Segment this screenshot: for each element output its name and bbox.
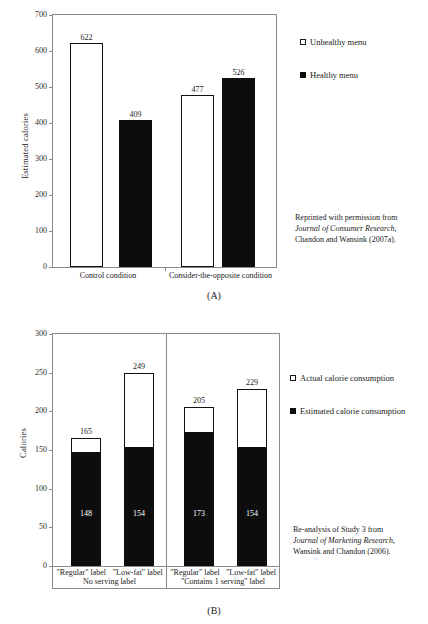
legend-item-estimated-consumption[interactable]: Estimated calorie consumption <box>290 407 405 416</box>
y-tick-b-250: 250 <box>35 369 53 377</box>
legend-b: Actual calorie consumption Estimated cal… <box>290 374 405 415</box>
y-tick-a-200: 200 <box>35 191 53 199</box>
x-label-regular-1: "Regular" label <box>53 568 110 577</box>
x-group-label-control: Control condition <box>52 272 164 281</box>
y-tick-b-200: 200 <box>35 407 53 415</box>
y-axis-title-a: Estimated calories <box>20 91 30 201</box>
legend-item-unhealthy-menu[interactable]: Unhealthy menu <box>300 38 366 47</box>
x-group-cell-contains-serving: "Regular" label "Low-fat" label "Contain… <box>166 567 279 588</box>
legend-a: Unhealthy menu Healthy menu <box>300 38 366 79</box>
legend-label: Actual calorie consumption <box>300 374 394 383</box>
y-axis-title-b: Calories <box>18 408 28 478</box>
bar-control-healthy[interactable]: 409 <box>119 120 152 267</box>
bar-total-label: 205 <box>193 397 205 405</box>
segment-actual <box>124 373 154 446</box>
figure-panel-b: Calories 300 250 200 150 100 50 0 165 14… <box>0 312 428 624</box>
open-square-icon <box>300 39 306 45</box>
segment-estimated <box>184 432 214 566</box>
bar-serving-regular[interactable]: 205 173 <box>184 407 214 566</box>
x-group-label-opposite: Consider-the-opposite condition <box>164 272 277 281</box>
bar-control-unhealthy[interactable]: 622 <box>70 43 103 267</box>
credit-line-1: Re-analysis of Study 3 from <box>293 524 395 535</box>
credit-a: Reprinted with permission from Journal o… <box>295 212 397 246</box>
panel-divider-b <box>166 334 167 566</box>
bar-opposite-healthy[interactable]: 526 <box>222 78 255 267</box>
credit-line-2: Journal of Consumer Research, <box>295 223 397 234</box>
filled-square-icon <box>290 408 296 414</box>
legend-label: Healthy menu <box>310 71 358 80</box>
credit-line-3: Wansink and Chandon (2006). <box>293 546 395 557</box>
x-label-lowfat-1: "Low-fat" label <box>110 568 167 577</box>
segment-actual <box>71 438 101 451</box>
x-label-regular-2: "Regular" label <box>167 568 223 577</box>
bar-value-label: 477 <box>192 86 204 94</box>
figure-panel-a: Estimated calories 700 600 500 400 300 2… <box>0 0 428 312</box>
legend-label: Estimated calorie consumption <box>300 407 405 416</box>
x-group-label-no-serving: No serving label <box>53 577 166 586</box>
legend-item-healthy-menu[interactable]: Healthy menu <box>300 71 366 80</box>
bar-noserving-lowfat[interactable]: 249 154 <box>124 373 154 566</box>
figure-page: Estimated calories 700 600 500 400 300 2… <box>0 0 428 624</box>
bar-estimated-label: 148 <box>80 510 92 518</box>
x-group-cell-no-serving: "Regular" label "Low-fat" label No servi… <box>53 567 166 588</box>
filled-square-icon <box>300 72 306 78</box>
credit-line-2: Journal of Marketing Research, <box>293 535 395 546</box>
bar-total-label: 249 <box>133 363 145 371</box>
bar-serving-lowfat[interactable]: 229 154 <box>237 389 267 566</box>
plot-area-a: 700 600 500 400 300 200 100 0 622 409 47… <box>52 14 277 268</box>
bar-noserving-regular[interactable]: 165 148 <box>71 438 101 566</box>
segment-actual <box>184 407 214 432</box>
y-tick-a-300: 300 <box>35 155 53 163</box>
y-tick-b-300: 300 <box>35 330 53 338</box>
open-square-icon <box>290 375 296 381</box>
bar-value-label: 526 <box>233 69 245 77</box>
bar-value-label: 409 <box>130 111 142 119</box>
bar-estimated-label: 154 <box>133 510 145 518</box>
bar-estimated-label: 173 <box>193 510 205 518</box>
segment-actual <box>237 389 267 447</box>
legend-label: Unhealthy menu <box>310 38 366 47</box>
bar-total-label: 229 <box>246 379 258 387</box>
legend-item-actual-consumption[interactable]: Actual calorie consumption <box>290 374 405 383</box>
y-tick-b-150: 150 <box>35 446 53 454</box>
x-label-strip-b: "Regular" label "Low-fat" label No servi… <box>52 567 280 589</box>
y-tick-b-50: 50 <box>39 523 53 531</box>
segment-estimated <box>237 447 267 566</box>
y-tick-a-700: 700 <box>35 11 53 19</box>
plot-area-b: 300 250 200 150 100 50 0 165 148 249 154 <box>52 333 280 567</box>
bar-total-label: 165 <box>80 428 92 436</box>
y-tick-a-100: 100 <box>35 227 53 235</box>
y-tick-a-0: 0 <box>43 263 53 271</box>
x-tick-mid-a <box>165 267 166 271</box>
x-label-lowfat-2: "Low-fat" label <box>223 568 279 577</box>
credit-b: Re-analysis of Study 3 from Journal of M… <box>293 524 395 558</box>
caption-b: (B) <box>0 605 428 616</box>
credit-line-1: Reprinted with permission from <box>295 212 397 223</box>
x-group-label-contains-serving: "Contains 1 serving" label <box>167 577 279 586</box>
y-tick-b-100: 100 <box>35 485 53 493</box>
bar-opposite-unhealthy[interactable]: 477 <box>181 95 214 267</box>
segment-estimated <box>124 447 154 566</box>
y-tick-a-400: 400 <box>35 119 53 127</box>
caption-a: (A) <box>0 290 428 301</box>
credit-line-3: Chandon and Wansink (2007a). <box>295 234 397 245</box>
bar-value-label: 622 <box>81 34 93 42</box>
y-tick-a-600: 600 <box>35 47 53 55</box>
y-tick-a-500: 500 <box>35 83 53 91</box>
bar-estimated-label: 154 <box>246 510 258 518</box>
